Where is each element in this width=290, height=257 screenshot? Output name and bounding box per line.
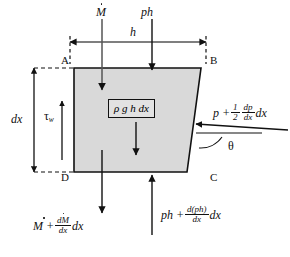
- angle-arc: [199, 137, 222, 148]
- weight-label-box: ρ g h dx: [108, 99, 155, 118]
- angle-label: θ: [228, 140, 234, 152]
- pressure-side-dpdx-fraction: dpdx: [242, 103, 255, 123]
- pressure-bottom-lead: ph +: [161, 208, 184, 222]
- pressure-bottom-tail: dx: [210, 208, 221, 222]
- pressure-bottom-label: ph +d(ph)dxdx: [161, 205, 221, 225]
- dpdx-numerator: dp: [242, 103, 255, 112]
- pressure-side-lead: p +: [213, 106, 230, 120]
- momentum-out-label: M +dMdxdx: [33, 216, 83, 236]
- half-denominator: 2: [231, 112, 240, 122]
- wall-shear-subscript: w: [49, 115, 54, 124]
- corner-label-d: D: [61, 172, 69, 183]
- corner-label-a: A: [61, 55, 69, 66]
- pressure-side-arrow: [196, 124, 288, 130]
- momentum-out-denominator: dx: [55, 225, 71, 235]
- half-numerator: 1: [231, 103, 240, 112]
- pressure-side-label: p +12dpdxdx: [213, 103, 267, 123]
- figure-canvas: A B C D M ph h dx τw ρ g h dx p +12dpdxd…: [0, 0, 290, 257]
- pressure-bottom-fraction: d(ph)dx: [185, 205, 209, 225]
- pressure-bottom-denominator: dx: [185, 214, 209, 224]
- momentum-in-symbol: M: [96, 6, 106, 18]
- momentum-out-lead: M +: [33, 220, 54, 232]
- momentum-out-fraction: dMdx: [55, 216, 71, 236]
- corner-label-c: C: [210, 172, 217, 183]
- momentum-in-label: M: [96, 6, 106, 18]
- pressure-side-half-fraction: 12: [231, 103, 240, 123]
- control-volume-trapezoid: [74, 68, 201, 172]
- pressure-side-tail: dx: [256, 106, 267, 120]
- width-label: h: [130, 26, 136, 38]
- height-label: dx: [11, 113, 22, 125]
- corner-label-b: B: [210, 55, 217, 66]
- dpdx-denominator: dx: [242, 112, 255, 122]
- wall-shear-label: τw: [44, 110, 54, 124]
- momentum-out-tail: dx: [72, 219, 83, 233]
- pressure-top-label: ph: [141, 6, 153, 18]
- pressure-bottom-numerator: d(ph): [185, 205, 209, 214]
- momentum-out-numerator: dM: [55, 216, 71, 225]
